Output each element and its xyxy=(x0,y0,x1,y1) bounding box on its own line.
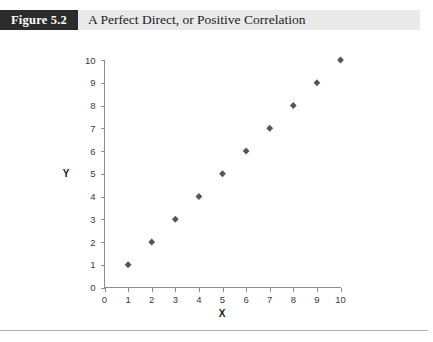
data-point xyxy=(243,148,250,155)
x-tick-label: 6 xyxy=(243,294,248,305)
y-axis-ticks: 012345678910 xyxy=(85,55,105,294)
y-tick-label: 1 xyxy=(90,259,95,270)
y-tick-label: 5 xyxy=(90,168,95,179)
data-point xyxy=(314,79,321,86)
x-tick-label: 8 xyxy=(291,294,296,305)
data-point xyxy=(337,57,344,64)
data-point xyxy=(196,193,203,200)
y-tick-label: 4 xyxy=(90,191,95,202)
y-tick-label: 7 xyxy=(90,123,95,134)
scatter-chart: 012345678910 012345678910 Y X xyxy=(0,34,433,319)
y-tick-label: 2 xyxy=(90,237,95,248)
y-tick-label: 6 xyxy=(90,146,95,157)
x-axis-title: X xyxy=(219,308,226,319)
data-point xyxy=(266,125,273,132)
data-point xyxy=(125,261,132,268)
figure-number-badge: Figure 5.2 xyxy=(0,10,78,30)
x-tick-label: 7 xyxy=(267,294,272,305)
figure-bottom-rule xyxy=(0,330,428,331)
y-tick-label: 0 xyxy=(90,282,95,293)
data-point xyxy=(172,216,179,223)
figure-header: Figure 5.2 A Perfect Direct, or Positive… xyxy=(0,10,420,30)
x-tick-label: 10 xyxy=(335,294,346,305)
y-tick-label: 9 xyxy=(90,77,95,88)
data-point xyxy=(219,170,226,177)
data-point xyxy=(148,239,155,246)
chart-canvas: 012345678910 012345678910 Y X xyxy=(0,34,433,319)
x-tick-label: 2 xyxy=(149,294,154,305)
x-tick-label: 3 xyxy=(173,294,178,305)
y-tick-label: 8 xyxy=(90,100,95,111)
x-tick-label: 4 xyxy=(196,294,201,305)
x-tick-label: 0 xyxy=(102,294,107,305)
y-tick-label: 10 xyxy=(85,55,96,66)
x-tick-label: 9 xyxy=(314,294,319,305)
y-axis-title: Y xyxy=(63,168,70,179)
x-tick-label: 1 xyxy=(125,294,130,305)
x-tick-label: 5 xyxy=(220,294,225,305)
data-point xyxy=(290,102,297,109)
x-axis-ticks: 012345678910 xyxy=(102,288,346,305)
figure-title: A Perfect Direct, or Positive Correlatio… xyxy=(88,10,305,30)
data-point-group xyxy=(125,57,344,269)
y-tick-label: 3 xyxy=(90,214,95,225)
